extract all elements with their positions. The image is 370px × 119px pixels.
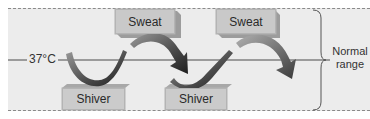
shiver-block-2-label: Shiver bbox=[165, 88, 227, 110]
normal-range-label-line2: range bbox=[330, 58, 370, 71]
curve-arrow-2 bbox=[130, 33, 188, 74]
normal-range-label: Normal range bbox=[330, 45, 370, 71]
curve-arrow-4 bbox=[236, 35, 296, 79]
sweat-block-1-label: Sweat bbox=[115, 9, 175, 34]
sweat-block-2-label: Sweat bbox=[216, 9, 276, 34]
normal-range-label-line1: Normal bbox=[330, 45, 370, 58]
shiver-block-1-label: Shiver bbox=[62, 88, 125, 110]
shiver-block-1: Shiver bbox=[62, 88, 125, 110]
setpoint-label: 37°C bbox=[27, 52, 58, 66]
curve-arrow-1 bbox=[66, 50, 127, 86]
sweat-block-2: Sweat bbox=[216, 9, 276, 34]
sweat-block-1: Sweat bbox=[115, 9, 175, 34]
shiver-block-2: Shiver bbox=[165, 88, 227, 110]
